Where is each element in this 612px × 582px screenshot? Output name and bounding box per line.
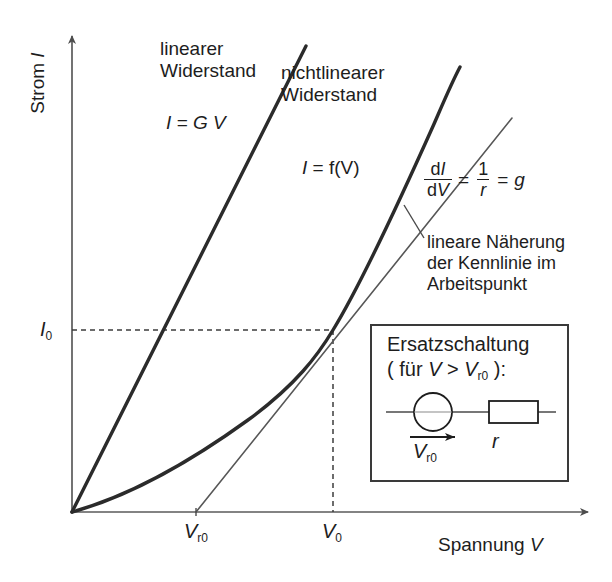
x-tick-label-v0: V0 bbox=[322, 520, 342, 543]
condition-vr0-symbol: V bbox=[464, 358, 477, 380]
derivative-denominator: dV bbox=[424, 179, 452, 199]
condition-prefix: ( für bbox=[387, 358, 428, 380]
x-tick-label-vr0: Vr0 bbox=[184, 520, 208, 543]
linear-resistor-line-1: linearer bbox=[160, 38, 256, 60]
vr0-subscript: r0 bbox=[197, 531, 208, 545]
derivative-fraction-1r: 1 r bbox=[475, 160, 491, 199]
approximation-annotation: lineare Näherung der Kennlinie im Arbeit… bbox=[427, 232, 565, 296]
nonlinear-equation-lhs: I bbox=[302, 157, 307, 178]
operating-point-guides bbox=[72, 330, 333, 512]
y-tick-label-i0: I0 bbox=[40, 318, 52, 341]
inset-condition: ( für V > Vr0 ): bbox=[387, 358, 506, 381]
reciprocal-numerator: 1 bbox=[475, 160, 491, 179]
x-axis-symbol: V bbox=[530, 534, 543, 555]
linear-equation-label: I = G V bbox=[166, 112, 226, 134]
vr0-symbol: V bbox=[184, 520, 197, 542]
approximation-line-2: der Kennlinie im bbox=[427, 253, 565, 274]
derivative-equals-2: = bbox=[497, 169, 508, 191]
linear-resistor-annotation: linearer Widerstand bbox=[160, 38, 256, 83]
x-axis-title-text: Spannung bbox=[438, 534, 525, 555]
approximation-line-1: lineare Näherung bbox=[427, 232, 565, 253]
approximation-leader-line bbox=[404, 205, 424, 238]
condition-vr0-subscript: r0 bbox=[478, 369, 489, 383]
source-subscript: r0 bbox=[426, 451, 437, 465]
condition-v-symbol: V bbox=[428, 358, 441, 380]
inset-title: Ersatzschaltung bbox=[387, 333, 529, 356]
figure-canvas: Strom I Spannung V linearer Widerstand I… bbox=[0, 0, 612, 582]
conductance-symbol: g bbox=[514, 169, 525, 191]
derivative-equals-1: = bbox=[458, 169, 469, 191]
condition-suffix: ): bbox=[488, 358, 506, 380]
nonlinear-resistor-line-1: nichtlinearer bbox=[281, 62, 385, 84]
x-axis-title: Spannung V bbox=[438, 534, 543, 556]
derivative-numerator: dI bbox=[428, 160, 449, 179]
source-symbol: V bbox=[413, 440, 426, 462]
v0-symbol: V bbox=[322, 520, 335, 542]
y-axis-symbol: I bbox=[27, 52, 48, 57]
y-tick-subscript: 0 bbox=[46, 329, 53, 343]
nonlinear-equation-label: I = f(V) bbox=[302, 157, 360, 179]
resistor-icon bbox=[489, 401, 538, 423]
nonlinear-resistor-line-2: Widerstand bbox=[281, 84, 385, 106]
nonlinear-resistor-annotation: nichtlinearer Widerstand bbox=[281, 62, 385, 107]
derivative-formula: dI dV = 1 r = g bbox=[424, 160, 525, 199]
y-axis-title-text: Strom bbox=[27, 63, 48, 114]
nonlinear-equation-rhs: = f(V) bbox=[313, 157, 360, 178]
v0-subscript: 0 bbox=[335, 531, 342, 545]
derivative-fraction-didv: dI dV bbox=[424, 160, 452, 199]
reciprocal-denominator: r bbox=[477, 179, 489, 199]
y-tick-symbol: I bbox=[40, 318, 46, 340]
y-axis-title: Strom I bbox=[27, 23, 49, 143]
inset-source-label: Vr0 bbox=[413, 440, 437, 463]
inset-resistor-label: r bbox=[492, 430, 499, 453]
linear-resistor-line-2: Widerstand bbox=[160, 60, 256, 82]
condition-operator: > bbox=[441, 358, 464, 380]
approximation-line-3: Arbeitspunkt bbox=[427, 274, 565, 295]
